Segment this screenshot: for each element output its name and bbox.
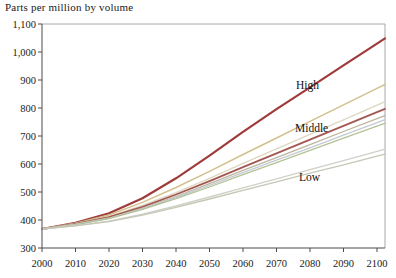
series-line-unlabeled-1 [42, 85, 385, 230]
y-tick-label: 800 [20, 103, 36, 114]
x-tick-label: 2060 [233, 258, 254, 269]
line-label-low: Low [299, 171, 320, 183]
series-line-high [42, 38, 385, 229]
y-tick-label: 1,000 [12, 47, 36, 58]
y-tick-label: 900 [20, 75, 36, 86]
x-tick-label: 2040 [166, 258, 187, 269]
y-tick-label: 500 [20, 187, 36, 198]
x-tick-label: 2100 [367, 258, 388, 269]
x-tick-label: 2050 [199, 258, 220, 269]
y-tick-label: 400 [20, 215, 36, 226]
x-tick-label: 2030 [132, 258, 153, 269]
y-tick-label: 1,100 [12, 19, 36, 30]
series-line-unlabeled-2 [42, 102, 385, 229]
x-tick-label: 2080 [300, 258, 321, 269]
y-tick-label: 600 [20, 159, 36, 170]
co2-concentration-projection-figure: Parts per million by volume 300400500600… [0, 0, 396, 278]
x-tick-label: 2000 [32, 258, 53, 269]
x-tick-label: 2090 [333, 258, 354, 269]
x-tick-label: 2070 [266, 258, 287, 269]
line-label-middle: Middle [295, 122, 328, 134]
line-label-high: High [296, 79, 319, 91]
plot-area: 3004005006007008009001,0001,100200020102… [0, 0, 396, 278]
y-tick-label: 300 [20, 243, 36, 254]
series-line-unlabeled-3 [42, 116, 385, 229]
x-tick-label: 2020 [99, 258, 120, 269]
y-tick-label: 700 [20, 131, 36, 142]
x-tick-label: 2010 [65, 258, 86, 269]
